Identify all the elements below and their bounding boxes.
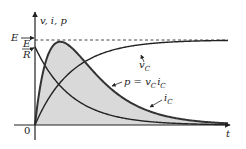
power-label-pointer [112,82,122,86]
ic-label-pointer [150,100,162,107]
y-axis-label: v, i, p [40,15,67,26]
er-label-denominator: R [22,49,31,60]
ic-label: iC [164,92,173,106]
origin-label: 0 [24,125,30,136]
power-label: p = vCiC [124,76,166,90]
chart: v, i, p t 0 E E R vC p = vCiC iC [0,0,246,149]
er-label-numerator: E [22,38,31,49]
x-axis-label: t [226,128,231,139]
vc-label: vC [139,59,151,73]
e-label: E [10,32,19,43]
